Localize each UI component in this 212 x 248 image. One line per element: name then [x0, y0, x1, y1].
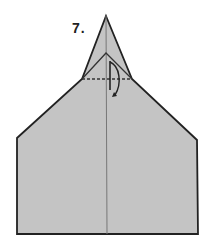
paper-outline [17, 16, 198, 234]
step-number: 7. [72, 20, 86, 36]
paper-airplane-diagram [0, 0, 212, 248]
origami-step-diagram: 7. [0, 0, 212, 248]
